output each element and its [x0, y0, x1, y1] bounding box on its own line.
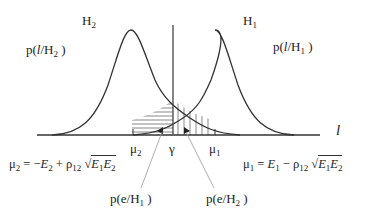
pdf-curve-h2: [52, 30, 240, 135]
mu2-label: μ2: [130, 142, 141, 158]
mu1-equation: μ1 = E1 − ρ12 √E1E2: [243, 158, 342, 173]
mu1-label: μ1: [209, 142, 220, 158]
error-label-h1: p(e/H1 ): [110, 192, 152, 208]
pdf-label-h2: p(l/H2 ): [26, 43, 66, 59]
error-region-h1: [130, 104, 175, 132]
error-label-h2: p(e/H2 ): [206, 192, 248, 208]
h2-label: H2: [82, 14, 96, 30]
pdf-label-h1: p(l/H1 ): [273, 40, 313, 56]
arrow-right-icon: [184, 127, 190, 134]
gamma-label: γ: [169, 142, 175, 155]
diagram-canvas: [0, 0, 375, 221]
mu2-equation: μ2 = −E2 + ρ12 √E1E2: [9, 158, 116, 173]
error-region-h2: [178, 98, 208, 136]
pdf-curve-h1: [133, 30, 294, 135]
axis-label-l: l: [336, 123, 340, 138]
h1-label: H1: [243, 14, 257, 30]
leader-line-h1: [141, 132, 162, 188]
hypothesis-diagram: H2 H1 p(l/H2 ) p(l/H1 ) l μ2 γ μ1 μ2 = −…: [0, 0, 375, 221]
